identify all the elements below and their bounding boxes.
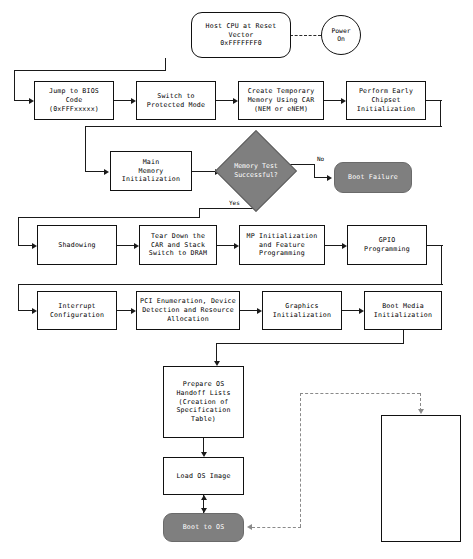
node-perform-early-chipset-init[interactable]: Perform Early Chipset Initialization bbox=[346, 81, 426, 120]
edge-chipset-down bbox=[440, 100, 441, 127]
arrowhead-dashed-into-boot-to-os bbox=[247, 524, 252, 530]
edge-decision-yes-left bbox=[199, 208, 257, 209]
edge-gpio-down-to-row4 bbox=[18, 284, 19, 311]
edge-gpio-left-long bbox=[18, 284, 443, 285]
node-boot-to-os[interactable]: Boot to OS bbox=[163, 513, 244, 542]
node-tear-down-car[interactable]: Tear Down the CAR and Stack Switch to DR… bbox=[139, 225, 217, 265]
node-boot-media-initialization[interactable]: Boot Media Initialization bbox=[364, 291, 442, 330]
arrowhead-no-to-boot-failure bbox=[327, 175, 332, 181]
node-create-temporary-memory[interactable]: Create Temporary Memory Using CAR (NEM o… bbox=[238, 81, 324, 120]
edge-gpio-down bbox=[441, 245, 442, 285]
edge-dashed-left-vertical bbox=[300, 393, 301, 527]
edge-chipset-left-long bbox=[85, 126, 442, 127]
edge-decision-no-down bbox=[314, 164, 315, 178]
arrowhead-into-main-memory bbox=[104, 169, 109, 175]
edge-bootmedia-left bbox=[216, 343, 404, 344]
edge-label-yes: Yes bbox=[229, 199, 240, 206]
node-main-memory-initialization[interactable]: Main Memory Initialization bbox=[110, 151, 192, 191]
node-memory-test-decision[interactable]: Memory Test Successful? bbox=[227, 142, 285, 200]
edge-decision-yes-down-to-row3 bbox=[18, 217, 19, 246]
node-pci-enumeration[interactable]: PCI Enumeration, Device Detection and Re… bbox=[136, 291, 240, 330]
edge-label-no: No bbox=[317, 155, 324, 162]
decision-label: Memory Test Successful? bbox=[210, 142, 302, 200]
node-interrupt-configuration[interactable]: Interrupt Configuration bbox=[37, 291, 117, 330]
edge-dashed-bottom-into-boot-to-os bbox=[252, 527, 301, 528]
node-boot-failure[interactable]: Boot Failure bbox=[334, 162, 412, 193]
node-switch-to-protected-mode[interactable]: Switch to Protected Mode bbox=[136, 81, 216, 120]
arrowhead-dashed-into-after-life bbox=[418, 409, 424, 414]
node-prepare-os-handoff-lists[interactable]: Prepare OS Handoff Lists (Creation of Sp… bbox=[163, 366, 244, 438]
node-load-os-image[interactable]: Load OS Image bbox=[163, 457, 244, 495]
node-host-cpu-reset-vector[interactable]: Host CPU at Reset Vector 0xFFFFFFF0 bbox=[191, 12, 291, 58]
arrowhead-load-to-boot-up bbox=[201, 495, 207, 500]
edge-hostcpu-left bbox=[14, 70, 166, 71]
node-gpio-programming[interactable]: GPIO Programming bbox=[347, 225, 427, 265]
node-shadowing[interactable]: Shadowing bbox=[37, 225, 117, 265]
node-jump-to-bios-code[interactable]: Jump to BIOS Code (0xFFFxxxxx) bbox=[34, 81, 114, 120]
node-after-life-container[interactable] bbox=[381, 415, 461, 542]
node-graphics-initialization[interactable]: Graphics Initialization bbox=[262, 291, 342, 330]
edge-chipset-down-to-row2 bbox=[85, 126, 86, 172]
edge-decision-yes-left-long bbox=[18, 217, 200, 218]
node-power-on[interactable]: Power On bbox=[321, 15, 361, 55]
edge-hostcpu-down-left bbox=[14, 70, 15, 101]
bios-boot-flowchart: Power On Host CPU at Reset Vector 0xFFFF… bbox=[0, 0, 473, 559]
node-mp-initialization[interactable]: MP Initialization and Feature Programmin… bbox=[239, 225, 325, 265]
edge-bootmedia-down bbox=[403, 330, 404, 344]
edge-dashed-top-horizontal bbox=[300, 393, 420, 394]
edge-power-on-to-host-cpu bbox=[290, 35, 321, 36]
